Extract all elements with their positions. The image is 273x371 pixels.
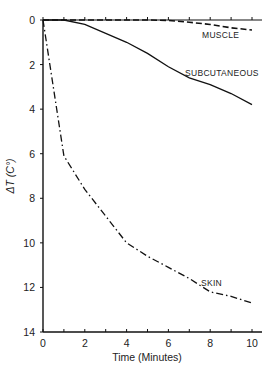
axes: 024681012140246810	[23, 14, 262, 349]
label-skin: SKIN	[201, 278, 222, 288]
y-tick-label: 12	[23, 281, 35, 293]
series-labels: MUSCLESUBCUTANEOUSSKIN	[185, 30, 259, 288]
x-axis-title: Time (Minutes)	[112, 351, 182, 363]
y-tick-label: 10	[23, 237, 35, 249]
label-muscle: MUSCLE	[202, 30, 239, 40]
y-tick-label: 2	[29, 59, 35, 71]
y-tick-label: 0	[29, 14, 35, 26]
y-tick-label: 14	[23, 326, 35, 338]
x-tick-label: 6	[165, 337, 171, 349]
x-tick-label: 4	[124, 337, 130, 349]
series-muscle	[43, 20, 252, 30]
x-tick-label: 10	[246, 337, 258, 349]
series-lines	[43, 20, 252, 303]
x-tick-label: 8	[207, 337, 213, 349]
y-axis-title: ΔT (C°)	[4, 158, 16, 194]
x-tick-label: 2	[82, 337, 88, 349]
x-tick-label: 0	[40, 337, 46, 349]
chart: 024681012140246810 MUSCLESUBCUTANEOUSSKI…	[0, 0, 273, 371]
y-tick-label: 6	[29, 148, 35, 160]
series-skin	[43, 20, 252, 303]
y-tick-label: 8	[29, 192, 35, 204]
label-subcutaneous: SUBCUTANEOUS	[185, 68, 259, 78]
y-tick-label: 4	[29, 103, 35, 115]
